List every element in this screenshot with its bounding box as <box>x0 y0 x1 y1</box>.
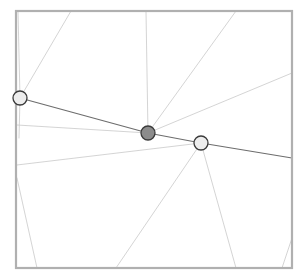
highlighted-edge <box>201 143 292 158</box>
graph-node-left-node[interactable] <box>13 91 27 105</box>
graph-node-center-node[interactable] <box>141 126 155 140</box>
highlighted-edge <box>20 98 148 133</box>
graph-edge <box>17 178 37 268</box>
graph-svg <box>0 0 308 277</box>
graph-edge <box>20 11 71 98</box>
bounding-frame <box>16 11 292 268</box>
graph-edge <box>146 11 148 133</box>
graph-edge <box>18 11 20 98</box>
graph-node-right-node[interactable] <box>194 136 208 150</box>
graph-edge <box>116 143 201 268</box>
graph-edge <box>282 238 292 268</box>
graph-edge <box>17 143 201 165</box>
diagram-canvas <box>0 0 308 277</box>
graph-edge <box>17 125 148 133</box>
thin-edges-group <box>17 11 292 268</box>
highlighted-edge <box>148 133 201 143</box>
graph-edge <box>201 143 236 268</box>
